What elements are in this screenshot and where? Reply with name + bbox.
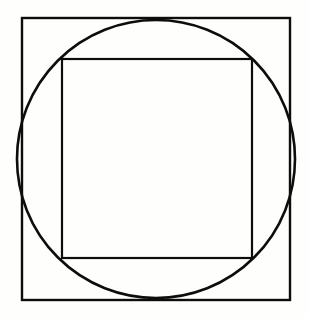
geometric-figure-svg — [0, 0, 309, 318]
figure-canvas — [0, 0, 309, 318]
inner-square — [62, 59, 252, 258]
circle — [17, 20, 295, 298]
